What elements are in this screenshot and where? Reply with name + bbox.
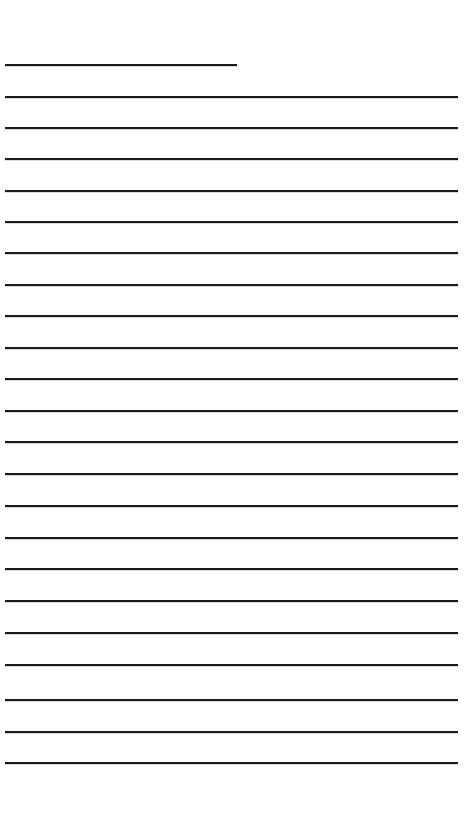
writing-rule-line xyxy=(5,378,458,380)
writing-rule-line xyxy=(5,190,458,192)
writing-rule-line xyxy=(5,252,458,254)
writing-rule-line xyxy=(5,731,458,733)
lined-paper-page xyxy=(0,0,465,825)
writing-rule-line xyxy=(5,600,458,602)
writing-rule-line xyxy=(5,127,458,129)
writing-rule-line xyxy=(5,632,458,634)
writing-rule-line xyxy=(5,699,458,701)
writing-rule-line xyxy=(5,505,458,507)
writing-rule-line xyxy=(5,473,458,475)
writing-rule-line xyxy=(5,347,458,349)
writing-rule-line xyxy=(5,158,458,160)
writing-rule-line xyxy=(5,762,458,764)
writing-rule-line xyxy=(5,221,458,223)
writing-rule-line xyxy=(5,284,458,286)
ruled-line-sheet xyxy=(0,0,465,825)
writing-rule-line xyxy=(5,664,458,666)
writing-rule-line xyxy=(5,96,458,98)
writing-rule-line xyxy=(5,441,458,443)
writing-rule-line xyxy=(5,315,458,317)
writing-rule-line xyxy=(5,537,458,539)
writing-rule-line xyxy=(5,410,458,412)
title-rule-line xyxy=(5,64,237,66)
writing-rule-line xyxy=(5,568,458,570)
